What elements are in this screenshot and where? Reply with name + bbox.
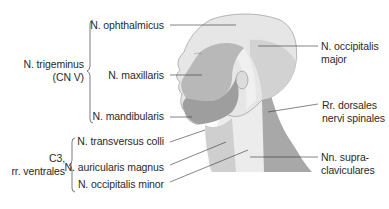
label-supraclaviculares-line2: claviculares bbox=[321, 164, 375, 177]
label-maxillaris: N. maxillaris bbox=[60, 69, 164, 82]
label-occipitalis-minor: N. occipitalis minor bbox=[40, 178, 164, 191]
leader-transversus-colli bbox=[170, 130, 205, 142]
label-transversus-colli: N. transversus colli bbox=[40, 135, 164, 148]
label-occipitalis-major-line2: major bbox=[321, 53, 379, 66]
label-dorsales-line1: Rr. dorsales bbox=[322, 99, 385, 112]
ear bbox=[236, 71, 248, 89]
label-occipitalis-major-line1: N. occipitalis bbox=[321, 40, 379, 53]
label-dorsales-line2: nervi spinales bbox=[322, 112, 385, 125]
label-dorsales: Rr. dorsales nervi spinales bbox=[322, 99, 385, 125]
label-mandibularis: N. mandibularis bbox=[60, 110, 164, 123]
label-occipitalis-major: N. occipitalis major bbox=[321, 40, 379, 66]
label-auricularis-magnus: N. auricularis magnus bbox=[40, 161, 164, 174]
label-supraclaviculares-line1: Nn. supra- bbox=[321, 151, 375, 164]
leader-dorsales bbox=[268, 104, 318, 112]
label-supraclaviculares: Nn. supra- claviculares bbox=[321, 151, 375, 177]
label-ophthalmicus: N. ophthalmicus bbox=[60, 19, 164, 32]
